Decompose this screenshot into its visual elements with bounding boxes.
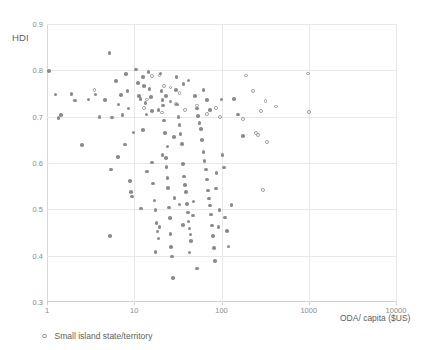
data-point-island — [241, 117, 245, 121]
data-point — [205, 178, 209, 182]
y-axis-title: HDI — [12, 32, 29, 43]
data-point — [220, 98, 224, 102]
data-point-island — [174, 102, 178, 106]
data-point — [202, 150, 206, 154]
data-point — [156, 230, 160, 234]
data-point — [186, 211, 190, 215]
x-tick-mark — [47, 302, 48, 305]
data-point — [215, 171, 219, 175]
data-point — [230, 203, 234, 207]
y-tick-label: 0.4 — [33, 251, 43, 260]
data-point — [142, 84, 146, 88]
y-tick-label: 0.9 — [33, 20, 43, 29]
data-point — [73, 99, 77, 103]
data-point — [196, 114, 200, 118]
data-point-island — [244, 74, 248, 78]
data-point — [221, 153, 225, 157]
data-point — [136, 81, 140, 85]
data-point — [168, 216, 172, 220]
data-point — [108, 234, 112, 238]
data-point — [59, 113, 63, 117]
data-point — [117, 103, 121, 107]
data-point — [164, 156, 168, 160]
gridline-vertical — [134, 24, 135, 302]
data-point — [154, 250, 158, 254]
data-point — [134, 68, 138, 72]
data-point — [119, 93, 123, 97]
y-tick-label: 0.8 — [33, 66, 43, 75]
data-point — [70, 92, 74, 96]
data-point — [188, 227, 192, 231]
data-point-island — [162, 84, 166, 88]
data-point — [154, 208, 158, 212]
data-point — [116, 155, 120, 159]
data-point-island — [93, 88, 97, 92]
data-point-island — [218, 115, 222, 119]
data-point — [121, 113, 125, 117]
data-point — [172, 135, 176, 139]
data-point — [151, 182, 155, 186]
data-point — [200, 138, 204, 142]
data-point — [209, 213, 213, 217]
data-point — [161, 98, 165, 102]
data-point — [161, 153, 165, 157]
data-point — [158, 225, 162, 229]
data-point — [193, 94, 197, 98]
x-tick-mark — [309, 302, 310, 305]
gridline-vertical — [309, 24, 310, 302]
data-point — [189, 239, 193, 243]
data-point — [180, 142, 184, 146]
data-point — [212, 246, 216, 250]
data-point-island — [264, 99, 268, 103]
data-point — [114, 79, 118, 83]
data-point — [145, 170, 149, 174]
data-point — [204, 168, 208, 172]
data-point — [141, 75, 145, 79]
y-tick-label: 0.5 — [33, 205, 43, 214]
data-point — [178, 203, 182, 207]
data-point — [80, 143, 84, 147]
data-point — [165, 165, 169, 169]
data-point — [139, 207, 143, 211]
data-point — [128, 179, 132, 183]
data-point — [205, 98, 209, 102]
data-point — [178, 123, 182, 127]
data-point — [179, 132, 183, 136]
data-point — [148, 87, 152, 91]
x-tick-label: 10 — [130, 306, 138, 315]
data-point — [223, 216, 227, 220]
data-point — [145, 113, 149, 117]
data-point — [206, 189, 210, 193]
data-point-island — [145, 98, 149, 102]
y-tick-label: 0.7 — [33, 112, 43, 121]
data-point — [127, 107, 131, 111]
data-point — [173, 196, 177, 200]
x-tick-mark — [396, 302, 397, 305]
data-point — [170, 255, 174, 259]
data-point — [177, 115, 181, 119]
data-point — [157, 237, 161, 241]
data-point-island — [307, 110, 311, 114]
data-point — [167, 206, 171, 210]
data-point — [166, 176, 170, 180]
data-point — [103, 98, 107, 102]
data-point-island — [160, 111, 164, 115]
data-point — [163, 131, 167, 135]
data-point — [98, 115, 102, 119]
data-point — [129, 190, 133, 194]
data-point — [198, 121, 202, 125]
y-tick-label: 0.3 — [33, 298, 43, 307]
data-point-island — [150, 74, 154, 78]
data-point — [144, 101, 148, 105]
data-point — [171, 276, 175, 280]
data-point — [175, 75, 179, 79]
data-point — [225, 229, 229, 233]
data-point — [153, 199, 157, 203]
data-point — [195, 267, 199, 271]
data-point-island — [274, 105, 278, 109]
x-tick-label: 100 — [215, 306, 228, 315]
data-point — [109, 168, 113, 172]
data-point — [189, 233, 193, 237]
data-point — [110, 116, 114, 120]
data-point-island — [251, 89, 255, 93]
